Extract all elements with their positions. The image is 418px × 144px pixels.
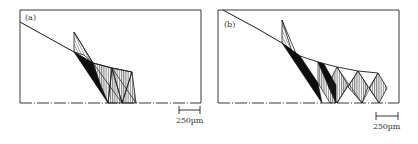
figure: (a) (b) 250µm 250µm	[0, 0, 418, 144]
panel-b-solid-wedge-1	[282, 43, 322, 103]
panel-a-slope-line	[20, 22, 74, 52]
panel-b-hatched-diamond-3	[369, 73, 387, 103]
panel-a-scale-bar	[179, 106, 200, 114]
diagram-canvas	[0, 0, 418, 144]
panel-a	[20, 10, 201, 114]
panel-b-label: (b)	[224, 20, 235, 29]
panel-a-label: (a)	[25, 13, 36, 22]
panel-a-scale-label: 250µm	[176, 116, 203, 125]
panel-b-scale-label: 250µm	[373, 122, 400, 131]
panel-b-scale-bar	[376, 112, 398, 120]
panel-b	[218, 10, 399, 120]
